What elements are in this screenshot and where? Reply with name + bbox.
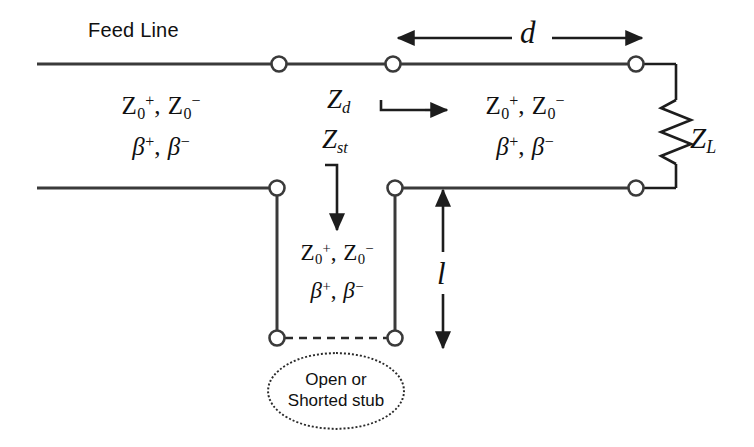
beta-comma: , — [518, 133, 532, 160]
impedance-symbol: Z — [301, 240, 316, 265]
feed-section-parameters: Z0+, Z0− β+, β− — [70, 92, 252, 161]
stub-section-beta: β+, β− — [278, 278, 396, 304]
beta-superscript-minus: − — [181, 133, 190, 150]
zd-subscript: d — [342, 98, 350, 117]
impedance-comma: , — [331, 240, 344, 265]
stub-section-parameters: Z0+, Z0− β+, β− — [278, 240, 396, 305]
beta-superscript-plus: + — [322, 278, 330, 294]
beta-superscript-plus: + — [145, 133, 154, 150]
node-top-junction-stub — [386, 57, 401, 72]
impedance-symbol: Z — [121, 92, 137, 119]
stub-callout-line-2: Shorted stub — [288, 391, 384, 412]
impedance-comma: , — [518, 92, 532, 119]
beta-symbol-2: β — [343, 279, 355, 304]
beta-superscript-minus: − — [355, 278, 363, 294]
zd-symbol: Z — [327, 84, 342, 114]
impedance-comma: , — [154, 92, 168, 119]
beta-symbol-2: β — [532, 133, 545, 160]
open-or-shorted-stub-callout: Open or Shorted stub — [267, 352, 405, 430]
node-stub-end-left — [270, 331, 285, 346]
zst-subscript: st — [337, 139, 348, 157]
impedance-zl-label: ZL — [690, 124, 716, 156]
dimension-label-d: d — [520, 17, 536, 48]
impedance-subscript-2: 0 — [184, 105, 192, 122]
impedance-superscript-minus: − — [365, 240, 373, 256]
impedance-superscript-minus: − — [192, 92, 201, 109]
beta-superscript-plus: + — [509, 133, 518, 150]
beta-symbol: β — [132, 133, 145, 160]
pointer-arrow-zst — [325, 165, 337, 230]
impedance-symbol-2: Z — [532, 92, 548, 119]
beta-comma: , — [331, 279, 344, 304]
transmission-line-diagram: Feed Line Z0+, Z0− β+, β− Z0+, Z0− β+, β… — [0, 0, 754, 447]
beta-superscript-minus: − — [545, 133, 554, 150]
beta-symbol: β — [310, 279, 322, 304]
node-stub-end-right — [388, 331, 403, 346]
zl-symbol: Z — [690, 122, 706, 154]
zl-subscript: L — [706, 137, 716, 157]
node-top-load-terminal — [629, 57, 644, 72]
impedance-subscript-2: 0 — [548, 105, 556, 122]
node-top-junction-left — [272, 57, 287, 72]
main-section-impedance: Z0+, Z0− — [432, 92, 618, 123]
impedance-symbol: Z — [485, 92, 501, 119]
impedance-superscript-plus: + — [322, 240, 330, 256]
node-bottom-load-terminal — [629, 181, 644, 196]
dimension-label-l: l — [437, 258, 446, 289]
impedance-symbol-2: Z — [168, 92, 184, 119]
stub-section-impedance: Z0+, Z0− — [278, 240, 396, 268]
beta-symbol-2: β — [168, 133, 181, 160]
beta-symbol: β — [496, 133, 509, 160]
impedance-superscript-plus: + — [145, 92, 154, 109]
feed-section-beta: β+, β− — [70, 133, 252, 161]
main-section-parameters: Z0+, Z0− β+, β− — [432, 92, 618, 161]
feed-section-impedance: Z0+, Z0− — [70, 92, 252, 123]
node-bottom-feed-terminal — [270, 181, 285, 196]
impedance-zd-label: Zd — [327, 86, 350, 117]
feed-line-label: Feed Line — [88, 20, 179, 40]
zst-symbol: Z — [322, 124, 337, 154]
node-bottom-stub-terminal — [388, 181, 403, 196]
load-impedance-symbol — [661, 64, 691, 188]
beta-comma: , — [154, 133, 168, 160]
stub-callout-line-1: Open or — [305, 370, 366, 391]
impedance-zst-label: Zst — [322, 126, 348, 156]
impedance-symbol-2: Z — [343, 240, 358, 265]
impedance-superscript-plus: + — [509, 92, 518, 109]
impedance-superscript-minus: − — [556, 92, 565, 109]
main-section-beta: β+, β− — [432, 133, 618, 161]
